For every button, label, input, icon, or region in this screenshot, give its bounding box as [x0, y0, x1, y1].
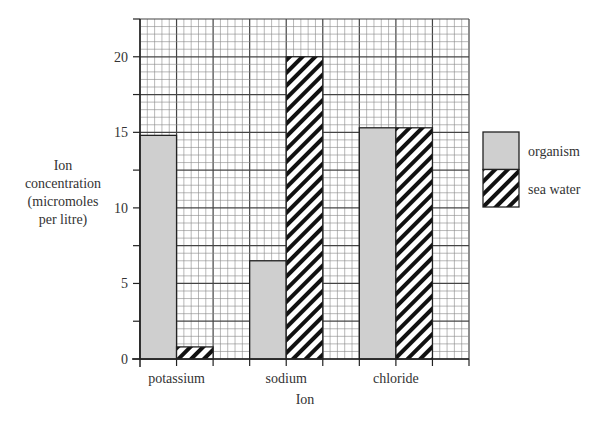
bar-chart: 05101520 potassiumsodiumchloride Ion Ion…	[0, 0, 609, 429]
y-tick-label: 0	[121, 352, 128, 367]
bar-potassium-organism	[140, 135, 177, 359]
y-tick-label: 20	[114, 50, 128, 65]
y-tick-label: 15	[114, 125, 128, 140]
y-axis-title: Ionconcentration(micromolesper litre)	[25, 158, 101, 228]
y-axis-title-line: concentration	[25, 176, 101, 191]
y-axis-title-line: Ion	[54, 158, 73, 173]
category-labels: potassiumsodiumchloride	[148, 371, 419, 386]
legend-label-organism: organism	[528, 144, 580, 159]
x-axis-title: Ion	[296, 392, 315, 407]
y-tick-label: 10	[114, 201, 128, 216]
bar-chloride-sea-water	[396, 128, 433, 359]
legend-swatch-sea-water	[483, 170, 519, 208]
y-axis-title-line: per litre)	[39, 212, 88, 228]
y-axis-title-line: (micromoles	[28, 194, 99, 210]
bar-sodium-sea-water	[286, 57, 323, 359]
category-label-potassium: potassium	[148, 371, 205, 386]
legend: organismsea water	[483, 132, 581, 207]
y-tick-label: 5	[121, 276, 128, 291]
legend-label-sea-water: sea water	[528, 182, 581, 197]
category-label-sodium: sodium	[266, 371, 307, 386]
bar-potassium-sea-water	[177, 347, 214, 359]
bar-chloride-organism	[359, 128, 396, 359]
bar-sodium-organism	[250, 261, 287, 359]
legend-swatch-organism	[483, 132, 519, 170]
y-tick-labels: 05101520	[114, 50, 128, 367]
category-label-chloride: chloride	[373, 371, 419, 386]
